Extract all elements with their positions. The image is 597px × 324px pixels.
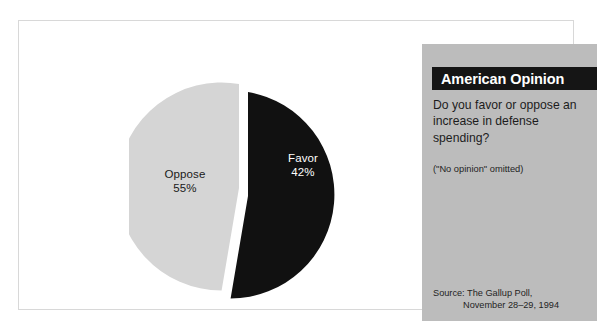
pie-label-favor-name: Favor [288, 152, 318, 164]
pie-slice-favor[interactable] [231, 92, 335, 299]
panel-title: American Opinion [432, 71, 564, 87]
pie-label-oppose-percent: 55% [147, 181, 223, 195]
american-opinion-panel: American Opinion Do you favor or oppose … [422, 44, 597, 321]
source-date: November 28–29, 1994 [433, 299, 597, 311]
source-attribution: Source: The Gallup Poll, November 28–29,… [433, 287, 597, 311]
source-label: Source: The Gallup Poll, [433, 288, 532, 298]
pie-chart: Oppose 55% Favor 42% [129, 76, 359, 311]
pie-label-favor: Favor 42% [269, 151, 337, 179]
poll-question: Do you favor or oppose an increase in de… [433, 97, 593, 146]
poll-note: ("No opinion" omitted) [433, 163, 593, 175]
panel-header-bar: American Opinion [432, 67, 597, 90]
pie-label-oppose-name: Oppose [165, 168, 206, 180]
pie-label-favor-percent: 42% [269, 165, 337, 179]
pie-label-oppose: Oppose 55% [147, 167, 223, 195]
figure-frame: Oppose 55% Favor 42% American Opinion Do… [18, 20, 574, 310]
